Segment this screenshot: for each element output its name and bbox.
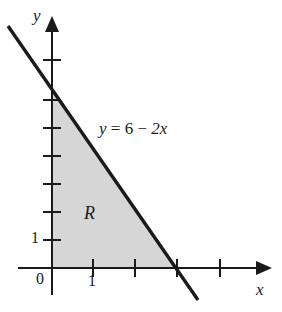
graph-figure: y x 0 1 1 R y = 6 − 2x [0, 0, 282, 312]
y-axis-arrow-icon [45, 16, 59, 32]
y-axis-label: y [33, 6, 41, 26]
x-axis-arrow-icon [256, 261, 272, 275]
line-equation-label: y = 6 − 2x [99, 119, 167, 139]
x-axis-label: x [256, 280, 264, 300]
equation-part-two-x: 2x [151, 119, 167, 138]
origin-tick-label: 0 [36, 270, 44, 288]
equation-part-y: y [99, 119, 107, 138]
y-axis-tick-label-1: 1 [31, 229, 39, 247]
x-axis-tick-label-1: 1 [88, 272, 96, 290]
graph-canvas [0, 0, 282, 312]
equation-part-equals: = [111, 119, 121, 138]
equation-part-minus: − [137, 119, 147, 138]
equation-part-six: 6 [125, 119, 134, 138]
region-label-R: R [84, 203, 95, 224]
